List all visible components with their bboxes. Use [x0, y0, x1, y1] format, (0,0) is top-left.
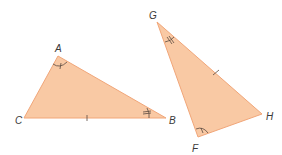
- triangle-abc: [24, 56, 166, 118]
- label-a: A: [54, 43, 62, 54]
- label-c: C: [15, 115, 23, 126]
- label-b: B: [169, 115, 176, 126]
- label-g: G: [149, 10, 157, 21]
- label-f: F: [192, 143, 199, 154]
- congruent-triangles-diagram: A C B G F H: [0, 0, 282, 155]
- label-h: H: [266, 111, 274, 122]
